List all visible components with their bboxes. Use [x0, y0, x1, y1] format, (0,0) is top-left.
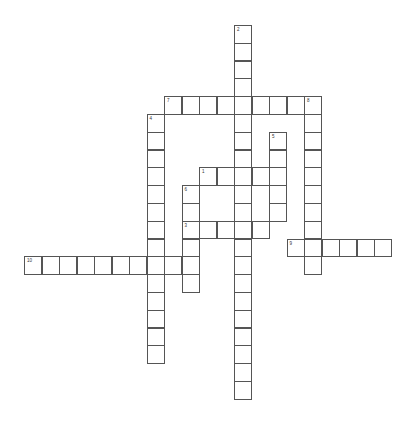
- crossword-cell[interactable]: [199, 96, 217, 115]
- crossword-cell[interactable]: [234, 328, 252, 347]
- clue-number: 1: [202, 169, 205, 174]
- crossword-cell[interactable]: [182, 256, 200, 275]
- crossword-cell[interactable]: [234, 78, 252, 97]
- crossword-cell[interactable]: [147, 150, 165, 169]
- crossword-cell[interactable]: 5: [269, 132, 287, 151]
- crossword-cell[interactable]: [182, 274, 200, 293]
- clue-number: 9: [290, 241, 293, 246]
- crossword-cell[interactable]: [234, 203, 252, 222]
- crossword-cell[interactable]: [304, 185, 322, 204]
- crossword-cell[interactable]: [304, 239, 322, 258]
- crossword-cell[interactable]: [234, 185, 252, 204]
- crossword-cell[interactable]: [129, 256, 147, 275]
- crossword-cell[interactable]: [234, 363, 252, 382]
- crossword-cell[interactable]: [234, 381, 252, 400]
- crossword-cell[interactable]: [304, 221, 322, 240]
- crossword-cell[interactable]: 6: [182, 185, 200, 204]
- crossword-cell[interactable]: [234, 132, 252, 151]
- crossword-cell[interactable]: [147, 203, 165, 222]
- crossword-cell[interactable]: 3: [182, 221, 200, 240]
- crossword-cell[interactable]: [217, 167, 235, 186]
- crossword-cell[interactable]: [199, 221, 217, 240]
- crossword-cell[interactable]: 10: [24, 256, 42, 275]
- crossword-cell[interactable]: [269, 167, 287, 186]
- crossword-cell[interactable]: [252, 221, 270, 240]
- crossword-cell[interactable]: [164, 256, 182, 275]
- crossword-cell[interactable]: [182, 96, 200, 115]
- crossword-cell[interactable]: [269, 96, 287, 115]
- clue-number: 10: [27, 258, 32, 263]
- crossword-cell[interactable]: [234, 292, 252, 311]
- crossword-cell[interactable]: [269, 150, 287, 169]
- clue-number: 3: [185, 223, 188, 228]
- crossword-cell[interactable]: [234, 274, 252, 293]
- crossword-cell[interactable]: [234, 310, 252, 329]
- clue-number: 6: [185, 187, 188, 192]
- crossword-cell[interactable]: [147, 239, 165, 258]
- crossword-cell[interactable]: [234, 239, 252, 258]
- crossword-cell[interactable]: [269, 185, 287, 204]
- crossword-cell[interactable]: [234, 96, 252, 115]
- crossword-cell[interactable]: [339, 239, 357, 258]
- crossword-cell[interactable]: [304, 132, 322, 151]
- crossword-cell[interactable]: [304, 150, 322, 169]
- crossword-cell[interactable]: [147, 132, 165, 151]
- clue-number: 7: [167, 98, 170, 103]
- crossword-cell[interactable]: [357, 239, 375, 258]
- crossword-cell[interactable]: [234, 256, 252, 275]
- crossword-cell[interactable]: [322, 239, 340, 258]
- crossword-grid: 12345678910: [0, 0, 413, 424]
- crossword-cell[interactable]: [147, 256, 165, 275]
- crossword-cell[interactable]: [42, 256, 60, 275]
- crossword-cell[interactable]: [147, 292, 165, 311]
- crossword-cell[interactable]: 8: [304, 96, 322, 115]
- crossword-cell[interactable]: [147, 185, 165, 204]
- crossword-cell[interactable]: [252, 167, 270, 186]
- crossword-cell[interactable]: [304, 167, 322, 186]
- crossword-cell[interactable]: [147, 274, 165, 293]
- clue-number: 5: [272, 134, 275, 139]
- clue-number: 4: [150, 116, 153, 121]
- crossword-cell[interactable]: [147, 345, 165, 364]
- crossword-cell[interactable]: [147, 328, 165, 347]
- crossword-cell[interactable]: 1: [199, 167, 217, 186]
- crossword-cell[interactable]: [77, 256, 95, 275]
- clue-number: 8: [307, 98, 310, 103]
- crossword-cell[interactable]: [147, 310, 165, 329]
- crossword-cell[interactable]: [217, 221, 235, 240]
- crossword-cell[interactable]: [234, 43, 252, 62]
- crossword-cell[interactable]: [234, 61, 252, 80]
- crossword-cell[interactable]: [94, 256, 112, 275]
- crossword-cell[interactable]: [269, 203, 287, 222]
- crossword-cell[interactable]: [234, 167, 252, 186]
- crossword-cell[interactable]: 4: [147, 114, 165, 133]
- crossword-cell[interactable]: 7: [164, 96, 182, 115]
- crossword-cell[interactable]: [304, 114, 322, 133]
- crossword-cell[interactable]: [147, 167, 165, 186]
- crossword-cell[interactable]: [182, 203, 200, 222]
- crossword-cell[interactable]: [304, 203, 322, 222]
- crossword-cell[interactable]: [234, 345, 252, 364]
- clue-number: 2: [237, 27, 240, 32]
- crossword-cell[interactable]: [112, 256, 130, 275]
- crossword-cell[interactable]: [147, 221, 165, 240]
- crossword-cell[interactable]: [234, 221, 252, 240]
- crossword-cell[interactable]: [304, 256, 322, 275]
- crossword-cell[interactable]: [234, 150, 252, 169]
- crossword-cell[interactable]: 9: [287, 239, 305, 258]
- crossword-cell[interactable]: 2: [234, 25, 252, 44]
- crossword-cell[interactable]: [217, 96, 235, 115]
- crossword-cell[interactable]: [374, 239, 392, 258]
- crossword-cell[interactable]: [252, 96, 270, 115]
- crossword-cell[interactable]: [182, 239, 200, 258]
- crossword-cell[interactable]: [59, 256, 77, 275]
- crossword-cell[interactable]: [234, 114, 252, 133]
- crossword-cell[interactable]: [287, 96, 305, 115]
